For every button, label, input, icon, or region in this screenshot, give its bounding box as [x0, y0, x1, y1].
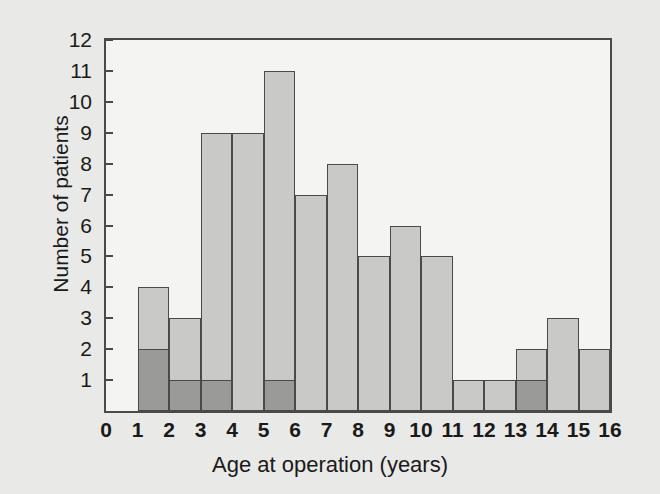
x-tick-label: 4 — [215, 419, 249, 440]
y-tick-label: 5 — [66, 245, 92, 266]
y-tick-label: 12 — [66, 29, 92, 50]
x-tick-label: 14 — [530, 419, 564, 440]
y-tick-label: 10 — [66, 91, 92, 112]
histogram-bar — [484, 40, 516, 411]
x-tick-label: 13 — [499, 419, 533, 440]
histogram-bar — [295, 40, 327, 411]
bar-total-segment — [579, 349, 611, 411]
x-tick-label: 12 — [467, 419, 501, 440]
bar-total-segment — [201, 133, 233, 411]
y-tick-label: 2 — [66, 338, 92, 359]
plot-area — [106, 40, 610, 411]
histogram-bar — [453, 40, 485, 411]
bar-total-segment — [358, 256, 390, 411]
histogram-bar — [390, 40, 422, 411]
x-axis-title: Age at operation (years) — [0, 452, 660, 478]
x-tick-label: 3 — [184, 419, 218, 440]
y-tick-label: 1 — [66, 369, 92, 390]
histogram-bar — [358, 40, 390, 411]
bar-shaded-segment — [516, 380, 548, 411]
x-tick-label: 6 — [278, 419, 312, 440]
y-tick-label: 6 — [66, 215, 92, 236]
bar-total-segment — [453, 380, 485, 411]
bar-shaded-segment — [138, 349, 170, 411]
bar-shaded-segment — [264, 380, 296, 411]
x-tick-label: 2 — [152, 419, 186, 440]
x-tick-label: 8 — [341, 419, 375, 440]
histogram-bar — [138, 40, 170, 411]
x-tick-label: 9 — [373, 419, 407, 440]
bar-total-segment — [421, 256, 453, 411]
bar-total-segment — [390, 226, 422, 412]
bar-total-segment — [264, 71, 296, 411]
histogram-bar — [232, 40, 264, 411]
bar-shaded-segment — [201, 380, 233, 411]
bar-total-segment — [327, 164, 359, 411]
y-axis-title: Number of patients — [49, 39, 73, 369]
histogram-bar — [516, 40, 548, 411]
histogram-figure: Number of patients 123456789101112 01234… — [0, 0, 660, 494]
y-tick-label: 8 — [66, 153, 92, 174]
x-tick-label: 11 — [436, 419, 470, 440]
y-tick-label: 9 — [66, 122, 92, 143]
histogram-bar — [327, 40, 359, 411]
x-tick-label: 7 — [310, 419, 344, 440]
bar-total-segment — [547, 318, 579, 411]
histogram-bar — [579, 40, 611, 411]
bar-total-segment — [232, 133, 264, 411]
histogram-bar — [547, 40, 579, 411]
x-tick-label: 1 — [121, 419, 155, 440]
y-tick-label: 11 — [66, 60, 92, 81]
x-tick-label: 0 — [89, 419, 123, 440]
x-tick-label: 15 — [562, 419, 596, 440]
histogram-bar — [201, 40, 233, 411]
bar-total-segment — [295, 195, 327, 411]
bar-total-segment — [484, 380, 516, 411]
y-tick-label: 4 — [66, 276, 92, 297]
histogram-bar — [169, 40, 201, 411]
x-tick-label: 5 — [247, 419, 281, 440]
histogram-bar — [264, 40, 296, 411]
x-tick-label: 10 — [404, 419, 438, 440]
y-tick-label: 7 — [66, 184, 92, 205]
bar-shaded-segment — [169, 380, 201, 411]
histogram-bar — [106, 40, 138, 411]
histogram-bar — [421, 40, 453, 411]
x-tick-label: 16 — [593, 419, 627, 440]
y-tick-label: 3 — [66, 307, 92, 328]
